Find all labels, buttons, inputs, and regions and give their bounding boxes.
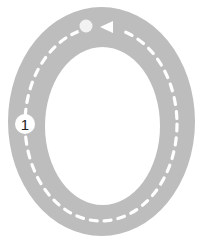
marker-1: 1 (15, 114, 35, 134)
race-track-diagram: 1 (0, 0, 201, 238)
marker-label: 1 (21, 116, 29, 133)
track-ring (8, 7, 195, 236)
start-dot-icon (80, 20, 93, 33)
